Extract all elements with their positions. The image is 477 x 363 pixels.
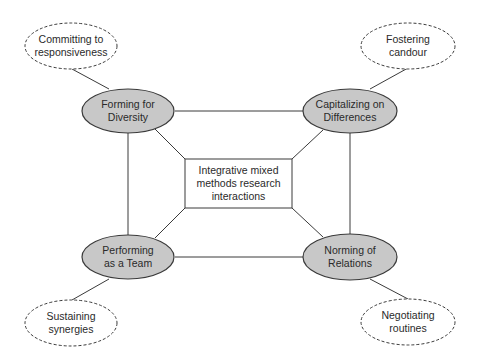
label-line: responsiveness (35, 46, 108, 59)
outcome-committing-label: Committing to responsiveness (25, 23, 117, 69)
label-line: Diversity (108, 111, 148, 124)
label-line: Forming for (101, 98, 155, 111)
stage-norming-label: Norming of Relations (303, 234, 397, 280)
label-line: synergies (49, 323, 94, 336)
center-label: Integrative mixed methods research inter… (185, 159, 292, 208)
connector-performing-center (155, 208, 185, 238)
center-label-line: methods research (196, 177, 280, 190)
label-line: Fostering (386, 33, 430, 46)
connector-forming-center (155, 129, 185, 159)
outcome-fostering-label: Fostering candour (361, 23, 455, 69)
stage-performing-label: Performing as a Team (82, 235, 174, 279)
label-line: Negotiating (381, 309, 434, 322)
label-line: as a Team (104, 257, 152, 270)
label-line: Capitalizing on (316, 98, 385, 111)
label-line: Sustaining (46, 310, 95, 323)
label-line: Differences (324, 111, 377, 124)
label-line: Relations (328, 257, 372, 270)
label-line: Norming of (324, 244, 375, 257)
outcome-sustaining-label: Sustaining synergies (25, 300, 117, 346)
label-line: candour (389, 46, 427, 59)
label-line: Committing to (39, 33, 104, 46)
center-label-line: interactions (212, 190, 266, 203)
connector-norming-negotiating (370, 279, 408, 299)
stage-capitalizing-label: Capitalizing on Differences (303, 89, 397, 133)
connector-performing-sustaining (72, 279, 109, 300)
connector-norming-center (292, 208, 323, 237)
stage-forming-label: Forming for Diversity (82, 89, 174, 133)
label-line: routines (389, 322, 426, 335)
label-line: Performing (102, 244, 153, 257)
connector-forming-committing (72, 69, 109, 89)
connector-capitalizing-center (292, 130, 323, 159)
center-label-line: Integrative mixed (199, 164, 279, 177)
connector-capitalizing-fostering (370, 68, 408, 89)
outcome-negotiating-label: Negotiating routines (361, 299, 455, 345)
